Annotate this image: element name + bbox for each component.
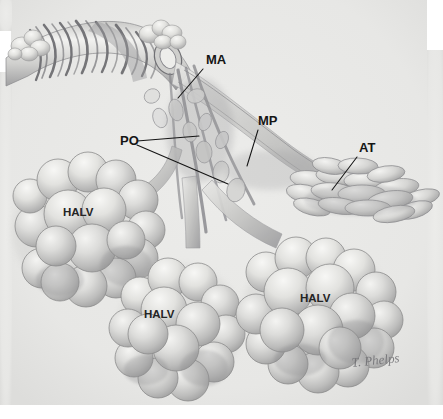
- callout-label-ma: MA: [206, 52, 227, 67]
- pulmonary-acinus-drawing: MA MP PO AT HALV HALV HALV T. Phelps: [0, 0, 443, 419]
- structure-label-halv-left: HALV: [63, 206, 94, 218]
- structure-label-halv-middle: HALV: [144, 308, 175, 320]
- structure-label-halv-right: HALV: [300, 292, 331, 304]
- illustration-figure: MA MP PO AT HALV HALV HALV T. Phelps: [0, 0, 443, 419]
- callout-label-at: AT: [359, 140, 375, 155]
- callout-label-mp: MP: [258, 113, 278, 128]
- callout-label-po: PO: [120, 133, 139, 148]
